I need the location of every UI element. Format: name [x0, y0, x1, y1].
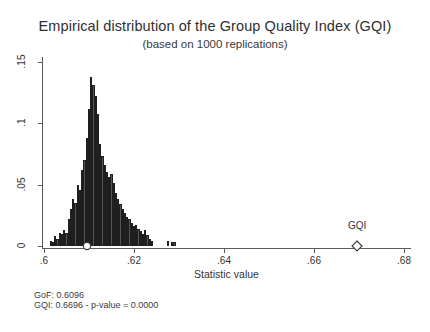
histogram-bars: [0, 0, 430, 332]
gqi-marker-label: GQI: [337, 220, 377, 231]
footnote-gof: GoF: 0.6096: [34, 290, 84, 300]
gof-marker-icon: [77, 236, 97, 256]
histogram-figure: Empirical distribution of the Group Qual…: [0, 0, 430, 332]
footnote-gqi: GQI: 0.6696 - p-value = 0.0000: [34, 300, 158, 310]
histogram-bar: [151, 241, 153, 246]
gqi-marker-icon: [347, 236, 367, 256]
histogram-bar: [167, 241, 169, 246]
histogram-bar: [173, 242, 175, 246]
